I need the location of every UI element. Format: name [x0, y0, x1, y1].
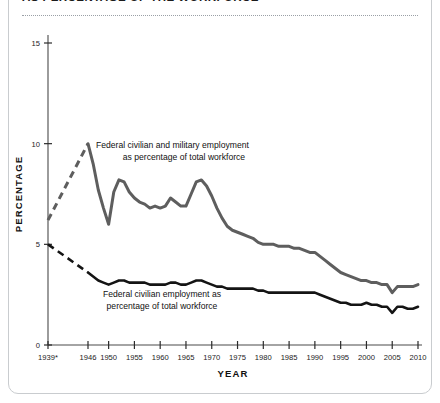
- x-tick-label: 1990: [306, 353, 323, 362]
- x-tick-label: 1975: [229, 353, 246, 362]
- x-tick-label: 2010: [410, 353, 427, 362]
- line-chart: 051015 1939*1946195019551960196519701975…: [0, 0, 440, 403]
- x-tick-label: 2000: [358, 353, 375, 362]
- x-axis-title: YEAR: [218, 368, 249, 379]
- y-tick-label: 5: [36, 240, 40, 249]
- y-axis-title: PERCENTAGE: [13, 156, 24, 232]
- x-tick-label: 1970: [203, 353, 220, 362]
- x-tick-label: 1985: [281, 353, 298, 362]
- annotation-civilian-line2: percentage of total workforce: [107, 301, 218, 311]
- x-tick-label: 1980: [255, 353, 272, 362]
- x-tick-label: 1955: [126, 353, 143, 362]
- x-tick-label: 1960: [152, 353, 169, 362]
- x-tick-label: 1946: [80, 353, 97, 362]
- y-axis-ticks: 051015: [32, 39, 52, 350]
- plot-series: [48, 144, 418, 313]
- y-tick-label: 0: [36, 341, 40, 350]
- series-line-0: [88, 144, 418, 293]
- x-axis-ticks: 1939*19461950195519601965197019751980198…: [38, 341, 426, 362]
- series-dashed-0: [48, 144, 88, 221]
- x-tick-label: 1939*: [38, 353, 58, 362]
- annotation-civilian-line1: Federal civilian employment as: [103, 289, 221, 299]
- series-dashed-1: [48, 244, 88, 272]
- y-tick-label: 10: [32, 140, 40, 149]
- y-tick-label: 15: [32, 39, 40, 48]
- chart-svg: 051015 1939*1946195019551960196519701975…: [0, 0, 440, 403]
- x-tick-label: 1950: [100, 353, 117, 362]
- x-tick-label: 2005: [384, 353, 401, 362]
- x-tick-label: 1995: [332, 353, 349, 362]
- chart-page: AS PERCENTAGE OF THE WORKFORCE 051015 19…: [0, 0, 440, 403]
- x-tick-label: 1965: [178, 353, 195, 362]
- annotation-total-line1: Federal civilian and military employment: [96, 140, 249, 150]
- annotation-total-line2: as percentage of total workforce: [123, 152, 246, 162]
